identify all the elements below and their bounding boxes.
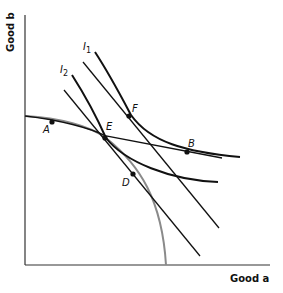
point-d-label: D xyxy=(122,177,130,188)
point-f-marker xyxy=(126,113,131,118)
point-b-marker xyxy=(184,149,189,154)
i2-label: I2 xyxy=(60,64,68,78)
indifference-curve-i1 xyxy=(95,52,240,157)
y-axis-label: Good b xyxy=(5,12,16,52)
x-axis-label: Good a xyxy=(230,273,269,284)
point-e-marker xyxy=(102,135,107,140)
diagram-canvas: A E F B D I1 I2 Good a Good b xyxy=(0,0,283,293)
i1-label: I1 xyxy=(83,41,91,55)
point-f-label: F xyxy=(132,103,138,114)
point-a-marker xyxy=(49,119,54,124)
point-e-label: E xyxy=(106,121,113,132)
point-b-label: B xyxy=(188,138,195,149)
point-d-marker xyxy=(130,171,135,176)
point-a-label: A xyxy=(42,124,50,135)
price-line-f xyxy=(83,62,219,228)
diagram: A E F B D I1 I2 Good a Good b xyxy=(0,0,283,293)
